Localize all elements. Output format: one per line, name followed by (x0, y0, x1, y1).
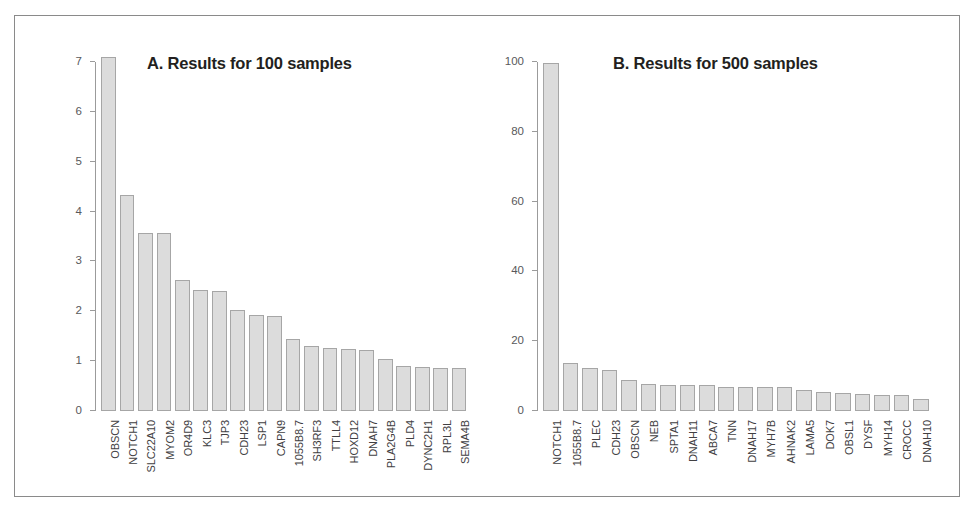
category-label: NEB (648, 420, 660, 442)
bar-group: SLC22A10 (138, 62, 153, 411)
bar-group: NEB (641, 62, 657, 411)
bar-group: DYSF (855, 62, 871, 411)
category-label: TTLL4 (330, 420, 342, 451)
panel-a-tick-label: 5 (76, 155, 82, 167)
category-label: CDH23 (610, 420, 622, 456)
category-label: TJP3 (219, 420, 231, 445)
category-label: SEMA4B (459, 420, 471, 464)
category-label: TNN (726, 420, 738, 442)
panel-a-tick-label: 6 (76, 105, 82, 117)
panel-a-tick-label: 3 (76, 254, 82, 266)
bar-group: DYNC2H1 (415, 62, 430, 411)
bar-group: SH3RF3 (304, 62, 319, 411)
bar (563, 363, 579, 411)
bar-group: DNAH17 (738, 62, 754, 411)
bar-group: NOTCH1 (543, 62, 559, 411)
panel-b-tick-label: 40 (511, 264, 524, 276)
panel-b-tick-0: 0 (532, 410, 537, 411)
panel-a-tick-label: 2 (76, 304, 82, 316)
bar (718, 387, 734, 411)
bar-group: OBSL1 (835, 62, 851, 411)
category-label: LAMA5 (804, 420, 816, 456)
bar (230, 310, 245, 411)
category-label: OBSCN (629, 420, 641, 459)
category-label: DNAH7 (367, 420, 379, 457)
panel-b-tick-label: 80 (511, 125, 524, 137)
panel-b-tick-label: 60 (511, 195, 524, 207)
category-label: MYH14 (882, 420, 894, 456)
bar-group: HOXD12 (341, 62, 356, 411)
bar-group: DNAH7 (359, 62, 374, 411)
category-label: 1055B8.7 (571, 420, 583, 466)
bar (835, 393, 851, 411)
category-label: CAPN9 (275, 420, 287, 456)
bar (249, 315, 264, 411)
category-label: CROCC (901, 420, 913, 460)
category-label: PLEC (590, 420, 602, 448)
category-label: SLC22A10 (145, 420, 157, 472)
bar-group: OBSCN (621, 62, 637, 411)
bar (286, 339, 301, 411)
bar (641, 384, 657, 411)
panel-a-plot-area: 01234567 OBSCNNOTCH1SLC22A10MYOM2OR4D9KL… (95, 62, 465, 411)
bar-group: 1055B8.7 (563, 62, 579, 411)
bar-group: DNAH11 (680, 62, 696, 411)
bar-group: MYH14 (874, 62, 890, 411)
panel-a-tick-3: 3 (90, 260, 95, 261)
category-label: KLC3 (201, 420, 213, 447)
panel-b-tick-label: 100 (505, 55, 524, 67)
chart-panel-a: A. Results for 100 samples 01234567 OBSC… (35, 16, 485, 496)
bar (660, 385, 676, 411)
bar (433, 368, 448, 411)
bar (415, 367, 430, 411)
bar (193, 290, 208, 411)
panel-a-tick-5: 5 (90, 161, 95, 162)
category-label: OBSL1 (843, 420, 855, 455)
panel-b-tick-40: 40 (532, 270, 537, 271)
panel-b-plot-area: 020406080100 NOTCH11055B8.7PLECCDH23OBSC… (537, 62, 927, 411)
bar-group: 1055B8.7 (286, 62, 301, 411)
panel-b-bars: NOTCH11055B8.7PLECCDH23OBSCNNEBSPTA1DNAH… (538, 62, 927, 411)
panel-a-tick-2: 2 (90, 310, 95, 311)
category-label: LSP1 (256, 420, 268, 447)
bar (323, 348, 338, 411)
panel-a-tick-4: 4 (90, 211, 95, 212)
bar-group: SPTA1 (660, 62, 676, 411)
bar (157, 233, 172, 411)
bar (602, 370, 618, 411)
panel-a-tick-1: 1 (90, 360, 95, 361)
bar (120, 195, 135, 411)
bar (874, 395, 890, 411)
bar (816, 392, 832, 411)
bar (212, 291, 227, 411)
category-label: RPL3L (441, 420, 453, 453)
bar-group: CDH23 (230, 62, 245, 411)
panel-a-tick-7: 7 (90, 61, 95, 62)
bar-group: NOTCH1 (120, 62, 135, 411)
panel-a-tick-label: 1 (76, 354, 82, 366)
bar-group: CDH23 (602, 62, 618, 411)
bar-group: CAPN9 (267, 62, 282, 411)
category-label: NOTCH1 (551, 420, 563, 465)
bar-group: LAMA5 (796, 62, 812, 411)
bar-group: PLD4 (396, 62, 411, 411)
bar-group: TNN (718, 62, 734, 411)
bar (543, 63, 559, 411)
bar (341, 349, 356, 411)
bar (913, 399, 929, 411)
category-label: DYSF (862, 420, 874, 449)
bar-group: PLA2G4B (378, 62, 393, 411)
bar (777, 387, 793, 411)
bar-group: CROCC (894, 62, 910, 411)
bar (267, 316, 282, 411)
bar-group: OR4D9 (175, 62, 190, 411)
category-label: ABCA7 (707, 420, 719, 456)
panel-a-bars: OBSCNNOTCH1SLC22A10MYOM2OR4D9KLC3TJP3CDH… (96, 62, 465, 411)
bar-group: TTLL4 (323, 62, 338, 411)
category-label: PLA2G4B (385, 420, 397, 468)
panel-b-tick-label: 0 (518, 404, 524, 416)
bar (138, 233, 153, 411)
category-label: OR4D9 (182, 420, 194, 456)
bar (894, 395, 910, 411)
bar (699, 385, 715, 411)
